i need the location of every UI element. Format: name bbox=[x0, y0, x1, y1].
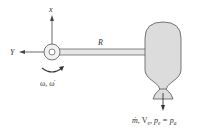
rotating-arm bbox=[58, 49, 146, 55]
rocket-body bbox=[145, 22, 181, 90]
pivot-hub bbox=[44, 44, 60, 60]
x-axis-arrow bbox=[50, 15, 54, 45]
y-axis-label: Y bbox=[10, 48, 16, 57]
rocket-arm-diagram: x Y R ω, ω̇ ṁ, Ve, pe = pa bbox=[0, 0, 198, 134]
y-axis-arrow bbox=[19, 50, 44, 54]
exhaust-conditions-label: ṁ, Ve, pe = pa bbox=[132, 116, 177, 126]
arm-length-label: R bbox=[97, 38, 103, 47]
rotation-label: ω, ω̇ bbox=[40, 79, 56, 88]
x-axis-label: x bbox=[48, 5, 53, 14]
rotation-arrow-icon bbox=[42, 66, 64, 72]
